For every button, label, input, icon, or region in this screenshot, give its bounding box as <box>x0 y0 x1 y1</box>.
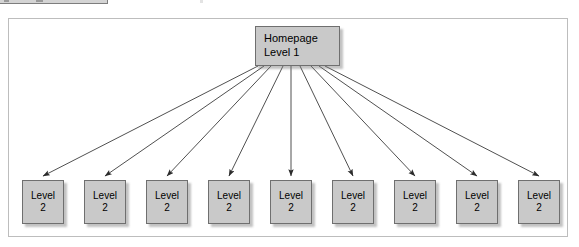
node-label-line-2: 2 <box>350 202 356 214</box>
node-label-line-1: Level <box>31 190 55 202</box>
node-level-2-2[interactable]: Level 2 <box>84 180 126 224</box>
toolbar-button-remnant-right[interactable] <box>36 0 43 2</box>
node-level-2-7[interactable]: Level 2 <box>394 180 436 224</box>
node-label-line-2: 2 <box>412 202 418 214</box>
node-label-line-2: 2 <box>102 202 108 214</box>
node-level-2-1[interactable]: Level 2 <box>22 180 64 224</box>
node-label-line-1: Level <box>527 190 551 202</box>
node-level-2-6[interactable]: Level 2 <box>332 180 374 224</box>
node-label-line-2: 2 <box>40 202 46 214</box>
node-label-line-1: Level <box>341 190 365 202</box>
node-label-line-2: 2 <box>164 202 170 214</box>
node-label-line-1: Level <box>217 190 241 202</box>
toolbar-button-remnant-left[interactable] <box>4 0 9 2</box>
node-level-2-3[interactable]: Level 2 <box>146 180 188 224</box>
node-level-2-5[interactable]: Level 2 <box>270 180 312 224</box>
node-root-line-2: Level 1 <box>264 46 339 60</box>
node-label-line-2: 2 <box>226 202 232 214</box>
node-label-line-1: Level <box>279 190 303 202</box>
node-level-2-4[interactable]: Level 2 <box>208 180 250 224</box>
node-label-line-1: Level <box>403 190 427 202</box>
node-level-2-9[interactable]: Level 2 <box>518 180 560 224</box>
node-label-line-1: Level <box>155 190 179 202</box>
node-label-line-1: Level <box>93 190 117 202</box>
node-label-line-2: 2 <box>288 202 294 214</box>
node-homepage-level-1[interactable]: Homepage Level 1 <box>255 26 340 66</box>
toolbar-marker-dot <box>200 0 203 3</box>
node-label-line-2: 2 <box>536 202 542 214</box>
node-label-line-2: 2 <box>474 202 480 214</box>
node-level-2-8[interactable]: Level 2 <box>456 180 498 224</box>
node-root-line-1: Homepage <box>264 32 339 46</box>
toolbar-strip[interactable] <box>0 0 108 4</box>
node-label-line-1: Level <box>465 190 489 202</box>
